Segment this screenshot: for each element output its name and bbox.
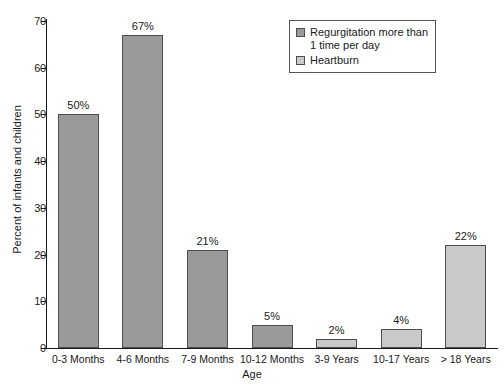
x-axis-title: Age: [0, 369, 504, 380]
bar: [316, 339, 357, 348]
bar: [381, 329, 422, 348]
bar-value-label: 22%: [431, 231, 501, 242]
legend-item: Heartburn: [296, 54, 428, 67]
x-axis-line: [46, 348, 498, 349]
legend-swatch-icon: [296, 56, 305, 65]
legend: Regurgitation more than 1 time per dayHe…: [289, 20, 436, 73]
bar-value-label: 5%: [237, 311, 307, 322]
bar: [445, 245, 486, 348]
y-tick-label-70: 70: [12, 16, 46, 27]
y-axis-ticks: 010203040506070: [0, 0, 46, 389]
legend-item: Regurgitation more than 1 time per day: [296, 26, 428, 52]
legend-swatch-icon: [296, 28, 305, 37]
x-tick-label: > 18 Years: [411, 353, 504, 365]
bar-value-label: 21%: [172, 236, 242, 247]
bar-group: 21%: [187, 21, 228, 348]
bar: [187, 250, 228, 348]
bar: [252, 325, 293, 348]
y-tick-label-60: 60: [12, 63, 46, 74]
bar-value-label: 50%: [43, 100, 113, 111]
bar-group: 67%: [122, 21, 163, 348]
legend-label: Regurgitation more than 1 time per day: [310, 26, 428, 52]
bar-chart: 010203040506070 Percent of infants and c…: [0, 0, 504, 389]
y-tick-label-10: 10: [12, 296, 46, 307]
legend-label: Heartburn: [310, 54, 359, 67]
bar-value-label: 67%: [108, 21, 178, 32]
bar-group: 22%: [445, 21, 486, 348]
bar-value-label: 4%: [366, 315, 436, 326]
bar-group: 50%: [58, 21, 99, 348]
bar-group: 5%: [252, 21, 293, 348]
y-axis-title: Percent of infants and children: [12, 85, 23, 275]
bar: [58, 114, 99, 348]
bar: [122, 35, 163, 348]
bar-value-label: 2%: [302, 325, 372, 336]
